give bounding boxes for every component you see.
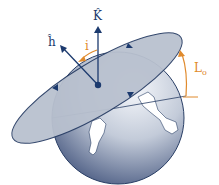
inclination-label: i [85, 40, 89, 52]
longitude-label-main: L [194, 61, 202, 75]
longitude-label-sub: o [202, 68, 207, 77]
h-vector-label: ĥ [48, 36, 56, 48]
orbit-diagram: K̂ ĥ i Lo [0, 0, 219, 185]
longitude-label: Lo [194, 62, 207, 79]
k-vector-label: K̂ [93, 10, 102, 22]
center-dot [95, 82, 101, 88]
diagram-canvas [0, 0, 219, 185]
